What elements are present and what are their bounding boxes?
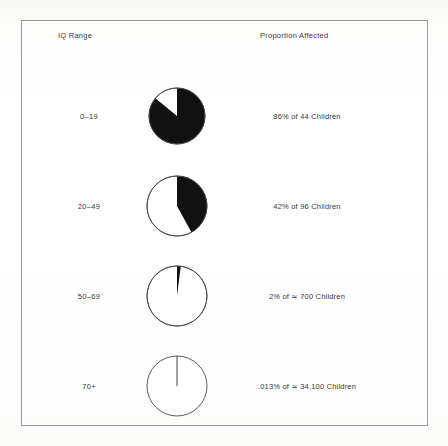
table-row: 70+.013% of ≃ 34,100 Children xyxy=(22,341,427,431)
proportion-affected-label: .013% of ≃ 34,100 Children xyxy=(202,382,412,391)
table-row: 50–692% of ≃ 700 Children xyxy=(22,251,427,341)
pie-chart-2 xyxy=(146,175,208,237)
iq-range-label: 50–69 xyxy=(34,292,144,301)
iq-range-label: 0–19 xyxy=(34,112,144,121)
proportion-affected-label: 86% of 44 Children xyxy=(202,112,412,121)
data-rows: 0–1986% of 44 Children20–4942% of 96 Chi… xyxy=(22,21,427,425)
table-row: 20–4942% of 96 Children xyxy=(22,161,427,251)
proportion-affected-label: 42% of 96 Children xyxy=(202,202,412,211)
pie-chart-4 xyxy=(146,355,208,417)
table-row: 0–1986% of 44 Children xyxy=(22,71,427,161)
iq-range-label: 70+ xyxy=(34,382,144,391)
pie-chart-1 xyxy=(148,87,206,145)
proportion-affected-label: 2% of ≃ 700 Children xyxy=(202,292,412,301)
figure-frame: IQ Range Proportion Affected 0–1986% of … xyxy=(21,20,428,426)
iq-range-label: 20–49 xyxy=(34,202,144,211)
pie-chart-3 xyxy=(146,265,208,327)
